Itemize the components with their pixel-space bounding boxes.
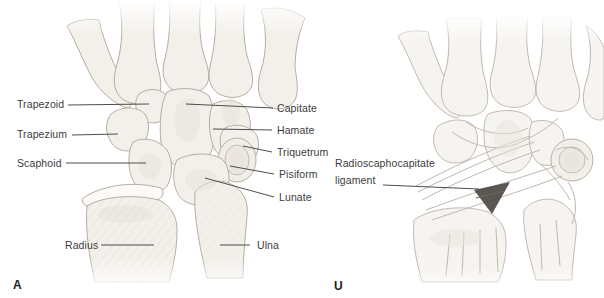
wrist-anatomy-figure: Trapezoid Trapezium Scaphoid Radius Capi… xyxy=(0,0,604,298)
label-hamate: Hamate xyxy=(277,124,314,136)
label-radioscaphocapitate-ligament: Radioscaphocapitate ligament xyxy=(335,155,435,189)
top-fade-b xyxy=(380,14,604,44)
bottom-fade-b xyxy=(380,266,604,298)
panel-b-letter: U xyxy=(334,279,343,293)
label-ulna: Ulna xyxy=(257,239,279,251)
label-scaphoid: Scaphoid xyxy=(17,157,62,169)
label-trapezium: Trapezium xyxy=(17,128,67,140)
ligament-label-line1: Radioscaphocapitate xyxy=(335,155,435,172)
label-radius: Radius xyxy=(65,239,98,251)
label-lunate: Lunate xyxy=(279,191,312,203)
label-trapezoid: Trapezoid xyxy=(17,98,64,110)
panel-a-letter: A xyxy=(13,278,22,292)
trapezium-trapezoid-b xyxy=(434,120,478,163)
top-fade xyxy=(55,0,335,36)
bottom-fade xyxy=(55,258,335,290)
label-triquetrum: Triquetrum xyxy=(277,146,328,158)
ligament-label-line2: ligament xyxy=(335,172,435,189)
label-pisiform: Pisiform xyxy=(279,168,318,180)
label-capitate: Capitate xyxy=(277,102,317,114)
